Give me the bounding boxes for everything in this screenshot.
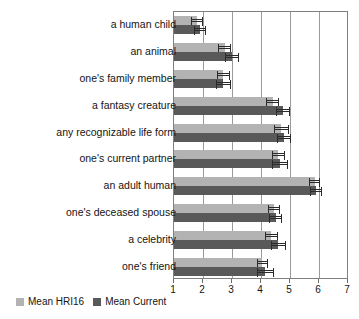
category-label: one's current partner	[79, 152, 176, 164]
x-axis-tick	[260, 279, 261, 283]
bar-hri16	[174, 204, 274, 213]
bar-group	[174, 240, 347, 249]
x-axis-tick	[202, 279, 203, 283]
error-bar	[191, 19, 203, 22]
bar-group	[174, 159, 347, 168]
error-bar	[277, 136, 292, 139]
legend-swatch-icon	[93, 298, 101, 306]
bar-current	[174, 267, 265, 276]
error-bar	[272, 162, 288, 165]
bar-hri16	[174, 70, 223, 79]
bar-current	[174, 213, 276, 222]
bar-current	[174, 159, 280, 168]
bar-hri16	[174, 97, 273, 106]
error-bar	[309, 180, 321, 183]
category-label: an adult human	[104, 179, 176, 191]
error-bar	[269, 216, 282, 219]
category-label: one's family member	[79, 72, 176, 84]
chart-row	[174, 12, 347, 39]
category-label: one's deceased spouse	[66, 206, 176, 218]
x-axis-tick-label: 3	[228, 284, 234, 295]
bar-hri16	[174, 177, 315, 186]
x-axis-tick-label: 2	[199, 284, 205, 295]
bar-group	[174, 79, 347, 88]
x-axis-tick	[289, 279, 290, 283]
x-axis-tick	[347, 279, 348, 283]
error-bar	[272, 153, 285, 156]
chart-row	[174, 92, 347, 119]
bar-group	[174, 186, 347, 195]
category-label: a human child	[111, 18, 176, 30]
bar-group	[174, 124, 347, 133]
error-bar	[257, 261, 269, 264]
x-axis-tick-label: 7	[344, 284, 350, 295]
bar-current	[174, 52, 232, 61]
bar-hri16	[174, 43, 225, 52]
bar-group	[174, 258, 347, 267]
legend-item-current: Mean Current	[93, 296, 166, 307]
error-bar	[271, 243, 286, 246]
category-label: any recognizable life form	[56, 126, 176, 138]
x-axis-tick	[231, 279, 232, 283]
chart-row	[174, 146, 347, 173]
x-axis: 1234567	[173, 279, 348, 285]
error-bar	[218, 46, 231, 49]
bar-hri16	[174, 150, 278, 159]
x-axis-tick	[173, 279, 174, 283]
x-axis-tick-label: 4	[257, 284, 263, 295]
legend-swatch-icon	[16, 298, 24, 306]
bar-current	[174, 186, 316, 195]
bar-group	[174, 213, 347, 222]
chart-row	[174, 119, 347, 146]
error-bar	[216, 82, 231, 85]
error-bar	[265, 234, 278, 237]
error-bar	[217, 73, 230, 76]
bar-current	[174, 133, 284, 142]
bar-group	[174, 133, 347, 142]
error-bar	[194, 28, 207, 31]
chart-row	[174, 253, 347, 280]
bar-group	[174, 43, 347, 52]
chart-row	[174, 226, 347, 253]
category-label: one's friend	[122, 260, 176, 272]
bar-group	[174, 204, 347, 213]
bar-group	[174, 97, 347, 106]
chart-row	[174, 173, 347, 200]
bar-group	[174, 25, 347, 34]
bar-group	[174, 16, 347, 25]
error-bar	[310, 189, 323, 192]
chart-row	[174, 200, 347, 227]
x-axis-tick-label: 6	[315, 284, 321, 295]
bar-group	[174, 231, 347, 240]
error-bar	[276, 109, 291, 112]
error-bar	[266, 100, 279, 103]
bar-hri16	[174, 231, 271, 240]
legend-item-hri16: Mean HRI16	[16, 296, 84, 307]
chart-row	[174, 66, 347, 93]
plot-area	[173, 11, 348, 279]
legend-label: Mean Current	[105, 296, 166, 307]
category-label: a celebrity	[128, 233, 176, 245]
error-bar	[274, 127, 289, 130]
x-axis-tick-label: 1	[170, 284, 176, 295]
x-axis-tick-label: 5	[286, 284, 292, 295]
bar-group	[174, 150, 347, 159]
bar-group	[174, 177, 347, 186]
error-bar	[268, 207, 280, 210]
bar-group	[174, 70, 347, 79]
bar-current	[174, 106, 283, 115]
chart-legend: Mean HRI16 Mean Current	[16, 296, 166, 307]
bar-hri16	[174, 258, 262, 267]
bar-current	[174, 240, 278, 249]
error-bar	[225, 55, 240, 58]
x-axis-tick	[318, 279, 319, 283]
legend-label: Mean HRI16	[28, 296, 84, 307]
category-label: a fantasy creature	[92, 99, 176, 111]
error-bar	[257, 270, 274, 273]
bar-hri16	[174, 124, 281, 133]
bar-group	[174, 52, 347, 61]
horizontal-bar-chart: a human childan animalone's family membe…	[0, 0, 359, 319]
bar-group	[174, 106, 347, 115]
chart-row	[174, 39, 347, 66]
category-label: an animal	[130, 45, 176, 57]
